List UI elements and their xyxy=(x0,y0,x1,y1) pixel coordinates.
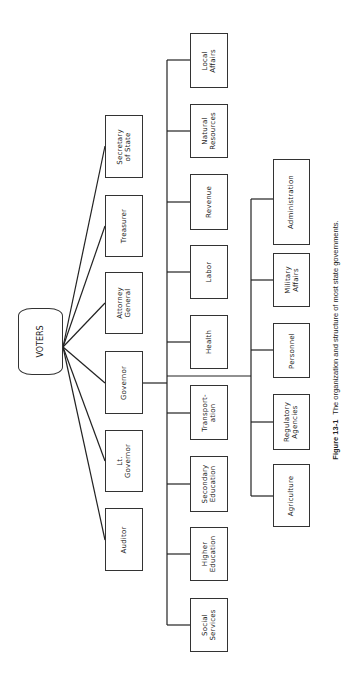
caption-text: The organization and structure of most s… xyxy=(331,220,340,414)
transportation-box: Transport- ation xyxy=(190,385,228,440)
box-label: Labor xyxy=(205,262,213,283)
treasurer-box: Treasurer xyxy=(105,195,143,257)
figure-number: Figure 13-1 xyxy=(331,420,340,460)
regulatory-agencies-box: Regulatory Agencies xyxy=(273,394,310,450)
box-label: Attorney General xyxy=(116,287,132,319)
box-label: Higher Education xyxy=(201,536,217,573)
box-label: Personnel xyxy=(288,332,296,368)
attorney-general-box: Attorney General xyxy=(105,272,143,334)
box-label: Administration xyxy=(288,175,296,229)
governor-box: Governor xyxy=(105,351,143,414)
box-label: Secondary Education xyxy=(201,465,217,504)
box-label: Military Affairs xyxy=(284,266,300,294)
lt-governor-box: Lt. Governor xyxy=(105,430,143,492)
personnel-box: Personnel xyxy=(273,323,310,378)
secondary-education-box: Secondary Education xyxy=(190,456,228,512)
box-label: Health xyxy=(205,330,213,354)
health-box: Health xyxy=(190,315,228,369)
social-services-box: Social Services xyxy=(190,598,228,652)
box-label: Transport- ation xyxy=(201,394,217,431)
box-label: Lt. Governor xyxy=(116,444,132,478)
higher-education-box: Higher Education xyxy=(190,527,228,581)
administration-box: Administration xyxy=(273,159,310,245)
box-label: Secretary of State xyxy=(116,129,132,164)
box-label: Auditor xyxy=(120,526,128,553)
military-affairs-box: Military Affairs xyxy=(273,253,310,307)
figure-caption: Figure 13-1The organization and structur… xyxy=(331,220,340,459)
labor-box: Labor xyxy=(190,245,228,299)
auditor-box: Auditor xyxy=(105,508,143,571)
box-label: Regulatory Agencies xyxy=(284,402,300,442)
box-label: Natural Resources xyxy=(201,112,217,150)
box-label: Agriculture xyxy=(288,475,296,516)
box-label: Governor xyxy=(120,365,128,399)
voters-label: VOTERS xyxy=(36,325,45,357)
box-label: Local Affairs xyxy=(201,49,217,73)
local-affairs-box: Local Affairs xyxy=(190,33,228,88)
box-label: Treasurer xyxy=(120,209,128,243)
natural-resources-box: Natural Resources xyxy=(190,104,228,158)
agriculture-box: Agriculture xyxy=(273,464,310,527)
voters-node: VOTERS xyxy=(18,308,63,375)
secretary-of-state-box: Secretary of State xyxy=(105,115,143,178)
box-label: Revenue xyxy=(205,186,213,218)
box-label: Social Services xyxy=(201,609,217,640)
revenue-box: Revenue xyxy=(190,174,228,230)
